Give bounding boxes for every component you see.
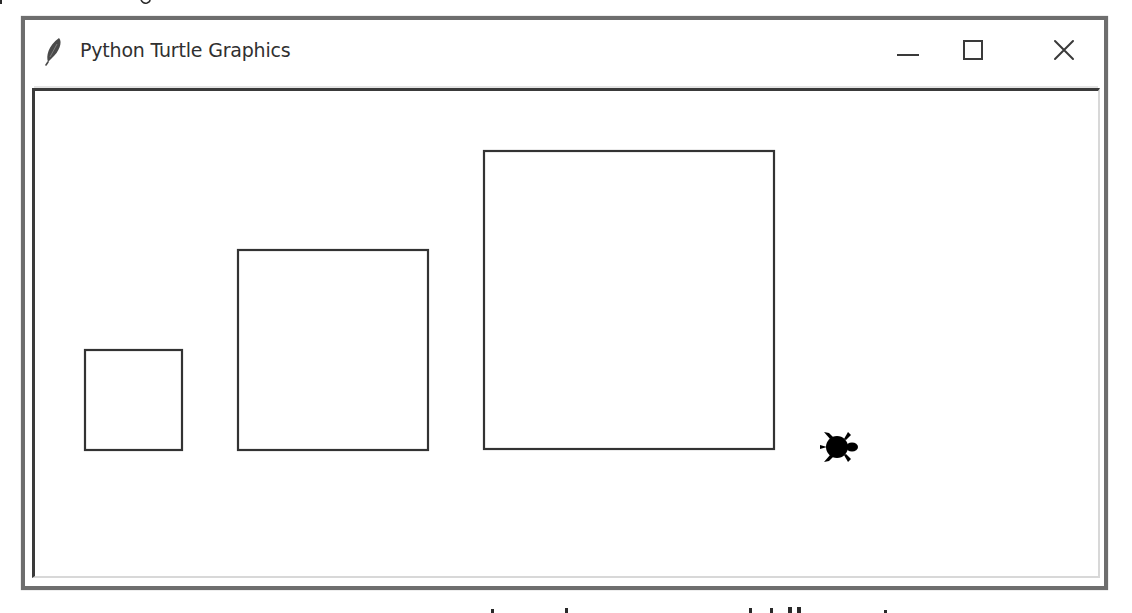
turtle-window: Python Turtle Graphics	[21, 16, 1108, 590]
large-square	[484, 151, 774, 449]
drawing-surface	[7, 4, 1132, 613]
turtle-canvas[interactable]	[32, 88, 1100, 578]
small-square	[85, 350, 182, 450]
medium-square	[238, 250, 428, 450]
turtle-icon	[820, 432, 858, 462]
page: Python Turtle Graphics	[0, 0, 1132, 613]
